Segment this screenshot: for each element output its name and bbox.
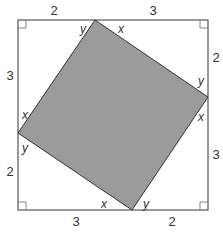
label-bottom-right-segment: 2	[168, 214, 175, 229]
angle-label-right-bottom: x	[197, 110, 205, 124]
angle-label-bottom-right: y	[142, 197, 150, 211]
right-angle-mark-bottom-left	[18, 202, 26, 210]
label-left-bottom-segment: 2	[6, 164, 13, 179]
label-bottom-left-segment: 3	[72, 214, 79, 229]
angle-label-top-left: y	[79, 22, 87, 36]
label-top-right-segment: 3	[149, 3, 156, 18]
label-left-top-segment: 3	[6, 68, 13, 83]
angle-label-top-right: x	[117, 22, 125, 36]
angle-label-bottom-left: x	[100, 197, 108, 211]
right-angle-mark-top-left	[18, 20, 26, 28]
right-angle-mark-top-right	[200, 20, 208, 28]
label-right-bottom-segment: 3	[212, 147, 219, 162]
inner-shaded-square	[18, 20, 208, 210]
right-angle-mark-bottom-right	[200, 202, 208, 210]
angle-label-left-bottom: y	[21, 141, 29, 155]
label-top-left-segment: 2	[50, 3, 57, 18]
label-right-top-segment: 2	[212, 50, 219, 65]
angle-label-left-top: x	[21, 108, 29, 122]
inscribed-square-diagram: 2 3 2 3 2 3 2 3 y x y x y x x y	[0, 0, 223, 233]
angle-label-right-top: y	[197, 74, 205, 88]
